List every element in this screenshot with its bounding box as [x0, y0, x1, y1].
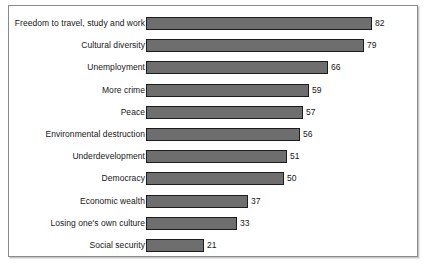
- bar-value-label: 33: [240, 217, 249, 230]
- bar-category-label: Democracy: [102, 172, 145, 185]
- bar-row: Peace57: [9, 106, 417, 119]
- bar-value-label: 37: [251, 195, 260, 208]
- bar: [146, 239, 204, 252]
- bar-value-label: 66: [331, 61, 340, 74]
- bar: [146, 195, 248, 208]
- bar: [146, 128, 300, 141]
- bar-category-label: Peace: [121, 106, 145, 119]
- bar: [146, 217, 237, 230]
- bar-row: Economic wealth37: [9, 195, 417, 208]
- bar-row: Freedom to travel, study and work82: [9, 17, 417, 30]
- bar-value-label: 57: [306, 106, 315, 119]
- bar-row: Environmental destruction56: [9, 128, 417, 141]
- bar-category-label: Freedom to travel, study and work: [15, 17, 145, 30]
- bar-value-label: 56: [303, 128, 312, 141]
- bar-row: More crime59: [9, 84, 417, 97]
- bar: [146, 150, 287, 163]
- bar-row: Underdevelopment51: [9, 150, 417, 163]
- bar: [146, 39, 364, 52]
- bar-value-label: 82: [375, 17, 384, 30]
- bar-value-label: 59: [312, 84, 321, 97]
- bar: [146, 17, 372, 30]
- bar-row: Unemployment66: [9, 61, 417, 74]
- bar-category-label: Environmental destruction: [45, 128, 145, 141]
- bar-chart-plot-area: Freedom to travel, study and work82Cultu…: [9, 6, 417, 256]
- bar-row: Social security21: [9, 239, 417, 252]
- bar-category-label: Unemployment: [87, 61, 145, 74]
- bar-category-label: Economic wealth: [80, 195, 145, 208]
- bar-category-label: Losing one's own culture: [51, 217, 146, 230]
- bar-category-label: More crime: [102, 84, 145, 97]
- bar-category-label: Social security: [89, 239, 145, 252]
- bar: [146, 61, 328, 74]
- bar: [146, 106, 303, 119]
- chart-screenshot: Freedom to travel, study and work82Cultu…: [0, 0, 434, 268]
- bar-value-label: 50: [287, 172, 296, 185]
- bar-value-label: 21: [207, 239, 216, 252]
- bar: [146, 172, 284, 185]
- bar-row: Cultural diversity79: [9, 39, 417, 52]
- bar-row: Losing one's own culture33: [9, 217, 417, 230]
- bar-category-label: Underdevelopment: [72, 150, 145, 163]
- bar-value-label: 79: [367, 39, 376, 52]
- bar-category-label: Cultural diversity: [81, 39, 145, 52]
- chart-frame: Freedom to travel, study and work82Cultu…: [8, 5, 418, 257]
- bar: [146, 84, 309, 97]
- bar-value-label: 51: [290, 150, 299, 163]
- bar-row: Democracy50: [9, 172, 417, 185]
